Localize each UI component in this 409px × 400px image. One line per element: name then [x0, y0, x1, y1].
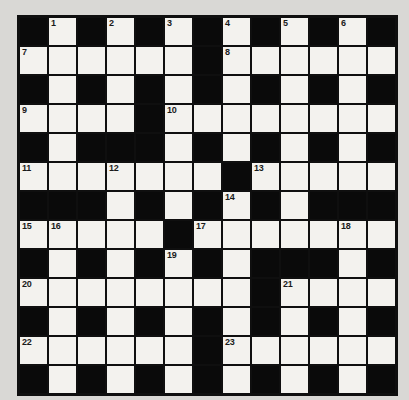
white-cell-r9c5[interactable] [165, 279, 192, 306]
white-cell-r9c4[interactable] [136, 279, 163, 306]
white-cell-r8c11[interactable] [339, 250, 366, 277]
white-cell-r2c3[interactable] [107, 76, 134, 103]
white-cell-r3c7[interactable] [223, 105, 250, 132]
white-cell-r7c11[interactable]: 18 [339, 221, 366, 248]
white-cell-r9c11[interactable] [339, 279, 366, 306]
white-cell-r0c3[interactable]: 2 [107, 18, 134, 45]
white-cell-r10c1[interactable] [49, 308, 76, 335]
white-cell-r1c11[interactable] [339, 47, 366, 74]
white-cell-r1c0[interactable]: 7 [20, 47, 47, 74]
white-cell-r7c1[interactable]: 16 [49, 221, 76, 248]
white-cell-r11c9[interactable] [281, 337, 308, 364]
white-cell-r1c5[interactable] [165, 47, 192, 74]
white-cell-r3c9[interactable] [281, 105, 308, 132]
white-cell-r9c1[interactable] [49, 279, 76, 306]
white-cell-r9c3[interactable] [107, 279, 134, 306]
white-cell-r8c1[interactable] [49, 250, 76, 277]
white-cell-r10c3[interactable] [107, 308, 134, 335]
white-cell-r5c11[interactable] [339, 163, 366, 190]
white-cell-r0c9[interactable]: 5 [281, 18, 308, 45]
white-cell-r5c0[interactable]: 11 [20, 163, 47, 190]
white-cell-r5c12[interactable] [368, 163, 395, 190]
white-cell-r11c5[interactable] [165, 337, 192, 364]
white-cell-r7c3[interactable] [107, 221, 134, 248]
white-cell-r2c1[interactable] [49, 76, 76, 103]
white-cell-r7c6[interactable]: 17 [194, 221, 221, 248]
white-cell-r11c11[interactable] [339, 337, 366, 364]
white-cell-r12c5[interactable] [165, 366, 192, 393]
white-cell-r9c6[interactable] [194, 279, 221, 306]
white-cell-r11c2[interactable] [78, 337, 105, 364]
white-cell-r5c3[interactable]: 12 [107, 163, 134, 190]
white-cell-r1c4[interactable] [136, 47, 163, 74]
white-cell-r10c5[interactable] [165, 308, 192, 335]
white-cell-r8c7[interactable] [223, 250, 250, 277]
white-cell-r10c9[interactable] [281, 308, 308, 335]
white-cell-r12c1[interactable] [49, 366, 76, 393]
white-cell-r7c4[interactable] [136, 221, 163, 248]
white-cell-r6c3[interactable] [107, 192, 134, 219]
white-cell-r4c11[interactable] [339, 134, 366, 161]
white-cell-r3c6[interactable] [194, 105, 221, 132]
white-cell-r1c10[interactable] [310, 47, 337, 74]
white-cell-r3c0[interactable]: 9 [20, 105, 47, 132]
white-cell-r3c10[interactable] [310, 105, 337, 132]
white-cell-r9c2[interactable] [78, 279, 105, 306]
white-cell-r1c7[interactable]: 8 [223, 47, 250, 74]
white-cell-r3c1[interactable] [49, 105, 76, 132]
white-cell-r6c7[interactable]: 14 [223, 192, 250, 219]
white-cell-r3c5[interactable]: 10 [165, 105, 192, 132]
white-cell-r9c10[interactable] [310, 279, 337, 306]
white-cell-r0c11[interactable]: 6 [339, 18, 366, 45]
white-cell-r5c2[interactable] [78, 163, 105, 190]
white-cell-r11c7[interactable]: 23 [223, 337, 250, 364]
white-cell-r7c0[interactable]: 15 [20, 221, 47, 248]
white-cell-r1c12[interactable] [368, 47, 395, 74]
white-cell-r4c9[interactable] [281, 134, 308, 161]
white-cell-r7c9[interactable] [281, 221, 308, 248]
white-cell-r9c9[interactable]: 21 [281, 279, 308, 306]
white-cell-r1c3[interactable] [107, 47, 134, 74]
white-cell-r12c11[interactable] [339, 366, 366, 393]
white-cell-r10c11[interactable] [339, 308, 366, 335]
white-cell-r5c6[interactable] [194, 163, 221, 190]
white-cell-r5c5[interactable] [165, 163, 192, 190]
white-cell-r11c12[interactable] [368, 337, 395, 364]
white-cell-r7c10[interactable] [310, 221, 337, 248]
white-cell-r9c7[interactable] [223, 279, 250, 306]
white-cell-r1c1[interactable] [49, 47, 76, 74]
white-cell-r3c11[interactable] [339, 105, 366, 132]
white-cell-r11c10[interactable] [310, 337, 337, 364]
white-cell-r2c5[interactable] [165, 76, 192, 103]
white-cell-r2c7[interactable] [223, 76, 250, 103]
white-cell-r11c1[interactable] [49, 337, 76, 364]
white-cell-r11c8[interactable] [252, 337, 279, 364]
white-cell-r5c9[interactable] [281, 163, 308, 190]
white-cell-r9c0[interactable]: 20 [20, 279, 47, 306]
white-cell-r4c1[interactable] [49, 134, 76, 161]
white-cell-r0c5[interactable]: 3 [165, 18, 192, 45]
white-cell-r5c10[interactable] [310, 163, 337, 190]
white-cell-r2c11[interactable] [339, 76, 366, 103]
white-cell-r3c8[interactable] [252, 105, 279, 132]
white-cell-r1c9[interactable] [281, 47, 308, 74]
white-cell-r7c2[interactable] [78, 221, 105, 248]
white-cell-r2c9[interactable] [281, 76, 308, 103]
white-cell-r3c12[interactable] [368, 105, 395, 132]
white-cell-r11c4[interactable] [136, 337, 163, 364]
white-cell-r10c7[interactable] [223, 308, 250, 335]
white-cell-r7c7[interactable] [223, 221, 250, 248]
white-cell-r8c5[interactable]: 19 [165, 250, 192, 277]
white-cell-r0c1[interactable]: 1 [49, 18, 76, 45]
white-cell-r11c3[interactable] [107, 337, 134, 364]
white-cell-r8c3[interactable] [107, 250, 134, 277]
white-cell-r4c5[interactable] [165, 134, 192, 161]
white-cell-r1c2[interactable] [78, 47, 105, 74]
white-cell-r1c8[interactable] [252, 47, 279, 74]
white-cell-r6c9[interactable] [281, 192, 308, 219]
white-cell-r3c3[interactable] [107, 105, 134, 132]
white-cell-r11c0[interactable]: 22 [20, 337, 47, 364]
white-cell-r12c9[interactable] [281, 366, 308, 393]
white-cell-r5c8[interactable]: 13 [252, 163, 279, 190]
white-cell-r6c5[interactable] [165, 192, 192, 219]
